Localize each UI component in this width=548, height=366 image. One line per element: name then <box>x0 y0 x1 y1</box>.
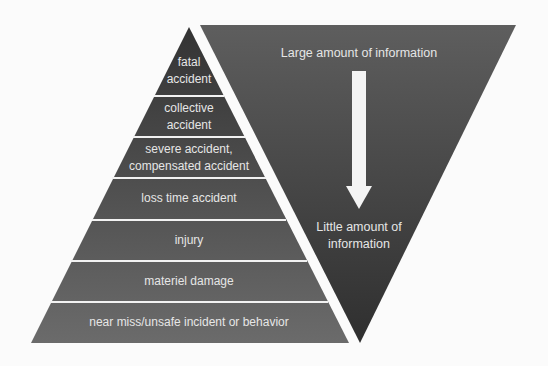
level-label-line: materiel damage <box>144 273 233 290</box>
pyramid-level-loss-time-accident: loss time accident <box>141 190 236 207</box>
pyramid-level-materiel-damage: materiel damage <box>144 273 233 290</box>
funnel-bottom-text-line: information <box>316 236 401 253</box>
level-label-line: compensated accident <box>129 158 249 175</box>
pyramid-level-near-miss: near miss/unsafe incident or behavior <box>89 314 288 331</box>
level-label-line: collective <box>164 100 213 117</box>
level-label-line: loss time accident <box>141 190 236 207</box>
funnel-bottom-text-line: Little amount of <box>316 219 401 236</box>
level-label-line: fatal <box>167 54 212 71</box>
level-label-line: accident <box>164 117 213 134</box>
pyramid-level-injury: injury <box>175 232 204 249</box>
diagram-graphics <box>0 0 548 366</box>
level-label-line: injury <box>175 232 204 249</box>
diagram-stage: fatal accident collective accident sever… <box>0 0 548 366</box>
funnel-top-text: Large amount of information <box>281 45 437 62</box>
little-amount-label: Little amount of information <box>316 219 401 253</box>
level-label-line: accident <box>167 71 212 88</box>
pyramid-level-collective-accident: collective accident <box>164 100 213 134</box>
large-amount-label: Large amount of information <box>281 45 437 62</box>
pyramid-level-severe-accident: severe accident, compensated accident <box>129 141 249 175</box>
pyramid-level-fatal-accident: fatal accident <box>167 54 212 88</box>
level-label-line: severe accident, <box>129 141 249 158</box>
level-label-line: near miss/unsafe incident or behavior <box>89 314 288 331</box>
